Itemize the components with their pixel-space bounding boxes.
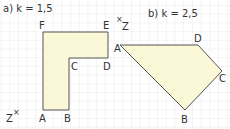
vertex-b-label-b: B (181, 114, 188, 125)
vertex-a-label-b: A (114, 43, 121, 54)
vertex-c-label-b: C (219, 73, 226, 84)
center-z-label: Z (6, 113, 13, 124)
part-b-title: b) k = 2,5 (148, 8, 198, 19)
vertex-a-label: A (39, 113, 46, 124)
center-z-label-b: Z (122, 21, 129, 32)
center-z-marker-icon: × (13, 108, 20, 117)
vertex-d-label-b: D (194, 33, 202, 44)
diagram-stage: a) k = 1,5 A B C D E F Z × b) k = 2,5 × … (0, 0, 230, 129)
part-a-title: a) k = 1,5 (3, 3, 53, 14)
vertex-d-label: D (103, 61, 111, 72)
vertex-e-label: E (103, 20, 109, 31)
vertex-f-label: F (39, 20, 45, 31)
vertex-c-label: C (71, 61, 78, 72)
diagram-svg: a) k = 1,5 A B C D E F Z × b) k = 2,5 × … (0, 0, 230, 129)
vertex-b-label: B (64, 113, 71, 124)
